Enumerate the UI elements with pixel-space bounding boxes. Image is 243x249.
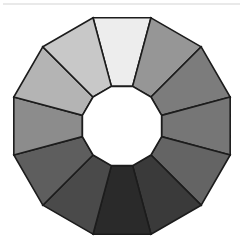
top-divider-rule bbox=[3, 3, 240, 5]
center-hub bbox=[82, 86, 161, 165]
grayscale-wheel-page bbox=[0, 0, 243, 249]
grayscale-segment-wheel bbox=[0, 6, 243, 246]
wheel-container bbox=[0, 6, 243, 246]
